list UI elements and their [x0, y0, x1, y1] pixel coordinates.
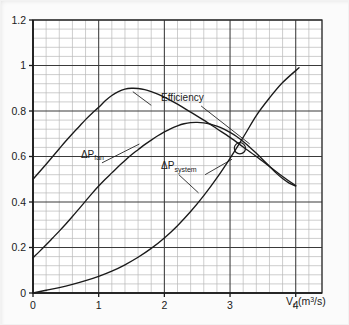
- y-tick-label: 0: [20, 287, 26, 299]
- x-tick-label: 2: [161, 299, 167, 311]
- dp-system-delta-text: ΔP: [161, 160, 175, 171]
- chart-canvas: 0123400.20.40.60.811.2 Efficiency ΔPfan …: [0, 0, 349, 325]
- y-tick-label: 0.6: [11, 150, 26, 162]
- x-axis-title-main: V: [286, 295, 293, 307]
- y-tick-label: 1: [20, 59, 26, 71]
- dp-fan-delta-text: ΔP: [81, 149, 95, 160]
- x-tick-label: 3: [227, 299, 233, 311]
- x-tick-label: 0: [30, 299, 36, 311]
- y-tick-label: 0.4: [11, 196, 26, 208]
- dp-system-subscript: system: [174, 166, 196, 174]
- y-tick-label: 0.8: [11, 105, 26, 117]
- figure-page: 0123400.20.40.60.811.2 Efficiency ΔPfan …: [0, 0, 349, 325]
- x-axis-title-unit-open: (m: [295, 295, 310, 307]
- y-tick-label: 0.2: [11, 241, 26, 253]
- y-tick-label: 1.2: [11, 14, 26, 26]
- x-axis-title: Vf (m3/s): [286, 295, 326, 309]
- curve-label-efficiency: Efficiency: [161, 92, 204, 103]
- dp-fan-subscript: fan: [94, 154, 104, 161]
- x-tick-label: 1: [96, 299, 102, 311]
- fan-system-curve-chart: 0123400.20.40.60.811.2 Efficiency ΔPfan …: [0, 0, 349, 325]
- x-axis-title-unit-close: /s): [314, 295, 326, 307]
